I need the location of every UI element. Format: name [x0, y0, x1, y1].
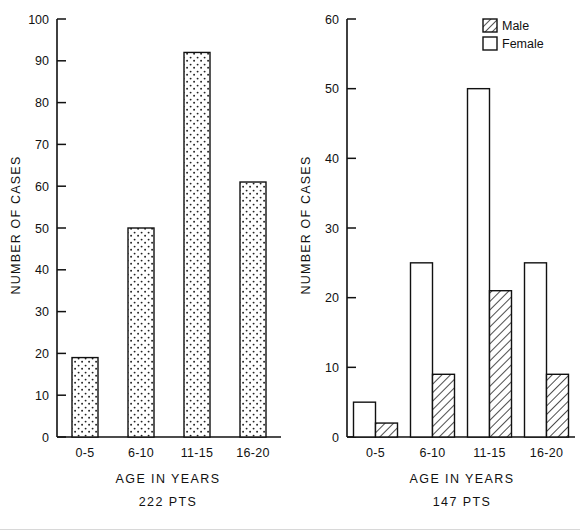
legend-label-male: Male [502, 19, 529, 33]
bar [184, 52, 210, 437]
left-chart-caption: 222 PTS [139, 495, 197, 509]
y-tick-label: 40 [325, 152, 339, 166]
right-y-axis: 0102030405060 [325, 13, 356, 445]
bar-female [525, 263, 547, 437]
right-y-axis-title: NUMBER OF CASES [299, 156, 313, 295]
y-tick-label: 50 [325, 82, 339, 96]
right-category-labels: 0-56-1011-1516-20 [366, 446, 563, 460]
y-tick-label: 60 [325, 13, 339, 27]
legend-swatch-female [483, 37, 497, 50]
bar-female [468, 89, 490, 437]
left-y-axis: 0102030405060708090100 [28, 13, 66, 445]
category-label: 11-15 [181, 446, 214, 460]
category-label: 0-5 [366, 446, 385, 460]
y-tick-label: 70 [35, 138, 49, 152]
y-tick-label: 0 [42, 431, 49, 445]
y-tick-label: 20 [325, 291, 339, 305]
bar-female [411, 263, 433, 437]
left-x-axis-title: AGE IN YEARS [116, 472, 221, 486]
bar-male [433, 374, 455, 437]
bar [128, 228, 154, 437]
category-label: 11-15 [473, 446, 506, 460]
bar [240, 182, 266, 437]
right-chart-panel: 0102030405060 0-56-1011-1516-20 Male Fem… [290, 0, 580, 530]
bar [72, 358, 98, 437]
left-chart-panel: 0102030405060708090100 0-56-1011-1516-20… [0, 0, 290, 530]
figure-root: 0102030405060708090100 0-56-1011-1516-20… [0, 0, 580, 530]
y-tick-label: 80 [35, 96, 49, 110]
category-label: 16-20 [236, 446, 269, 460]
y-tick-label: 100 [28, 13, 49, 27]
y-tick-label: 60 [35, 180, 49, 194]
bar-male [376, 423, 398, 437]
left-category-labels: 0-56-1011-1516-20 [76, 446, 270, 460]
y-tick-label: 30 [325, 222, 339, 236]
legend: Male Female [483, 19, 544, 51]
y-tick-label: 0 [332, 431, 339, 445]
bar-male [547, 374, 569, 437]
left-y-axis-title: NUMBER OF CASES [9, 156, 23, 295]
bar-male [490, 291, 512, 437]
category-label: 0-5 [76, 446, 95, 460]
left-bars-group [72, 52, 266, 437]
legend-label-female: Female [502, 37, 544, 51]
right-chart-caption: 147 PTS [433, 495, 491, 509]
y-tick-label: 30 [35, 305, 49, 319]
category-label: 6-10 [128, 446, 154, 460]
y-tick-label: 90 [35, 54, 49, 68]
category-label: 6-10 [419, 446, 445, 460]
legend-swatch-male [483, 19, 497, 32]
right-chart-svg: 0102030405060 0-56-1011-1516-20 Male Fem… [290, 0, 580, 530]
y-tick-label: 40 [35, 263, 49, 277]
y-tick-label: 50 [35, 222, 49, 236]
bar-female [354, 402, 376, 437]
left-chart-svg: 0102030405060708090100 0-56-1011-1516-20… [0, 0, 290, 530]
y-tick-label: 20 [35, 347, 49, 361]
right-bars-group [354, 89, 569, 437]
y-tick-label: 10 [35, 389, 49, 403]
y-tick-label: 10 [325, 361, 339, 375]
category-label: 16-20 [530, 446, 563, 460]
right-x-axis-title: AGE IN YEARS [410, 472, 515, 486]
